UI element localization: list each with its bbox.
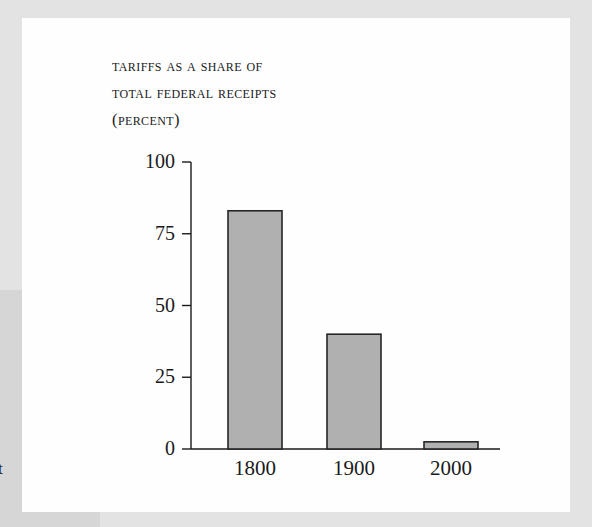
figure-title: Tariffs as a share of total federal rece… [112,52,512,133]
figure-title-line-2: total federal receipts [112,79,512,106]
scanned-page: t Tariffs as a share of total federal re… [0,0,592,527]
clipped-body-text: t [0,458,14,480]
figure-title-line-3: (percent) [112,106,512,133]
figure-title-line-1: Tariffs as a share of [112,52,512,79]
